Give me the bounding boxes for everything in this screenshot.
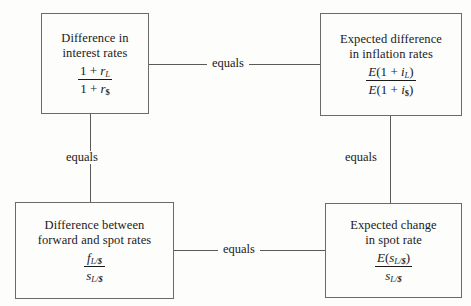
edge-label-right: equals <box>340 151 382 164</box>
edge-label-top: equals <box>207 57 249 70</box>
formula-interest-rate-ratio: 1 + rL 1 + r$ <box>78 63 112 96</box>
parity-diagram: equals equals equals equals Difference i… <box>0 0 471 306</box>
formula-denominator: sL/$ <box>84 267 104 283</box>
node-expected-change-in-spot-rate[interactable]: Expected change in spot rate E(sL/$) sL/… <box>325 203 462 298</box>
node-expected-difference-in-inflation-rates[interactable]: Expected difference in inflation rates E… <box>320 13 462 116</box>
formula-denominator: sL/$ <box>375 267 412 283</box>
node-difference-in-interest-rates[interactable]: Difference in interest rates 1 + rL 1 + … <box>41 13 149 114</box>
node-title-bottom-left: Difference between forward and spot rate… <box>38 218 152 247</box>
formula-inflation-rate-ratio: E(1 + iL) E(1 + i$) <box>366 64 415 97</box>
connector-right-vertical <box>390 115 391 204</box>
formula-denominator: 1 + r$ <box>78 80 112 96</box>
edge-label-left: equals <box>61 151 103 164</box>
node-difference-between-forward-and-spot-rates[interactable]: Difference between forward and spot rate… <box>15 202 174 299</box>
formula-numerator: fL/$ <box>84 250 104 267</box>
edge-label-bottom: equals <box>218 243 260 256</box>
formula-numerator: E(1 + iL) <box>366 64 415 81</box>
node-title-top-left: Difference in interest rates <box>61 31 128 60</box>
node-title-top-right: Expected difference in inflation rates <box>340 32 442 61</box>
formula-expected-spot-ratio: E(sL/$) sL/$ <box>375 250 412 283</box>
formula-numerator: 1 + rL <box>78 63 112 80</box>
node-title-bottom-right: Expected change in spot rate <box>350 218 437 247</box>
formula-denominator: E(1 + i$) <box>366 81 415 97</box>
formula-forward-spot-ratio: fL/$ sL/$ <box>84 250 104 283</box>
formula-numerator: E(sL/$) <box>375 250 412 267</box>
